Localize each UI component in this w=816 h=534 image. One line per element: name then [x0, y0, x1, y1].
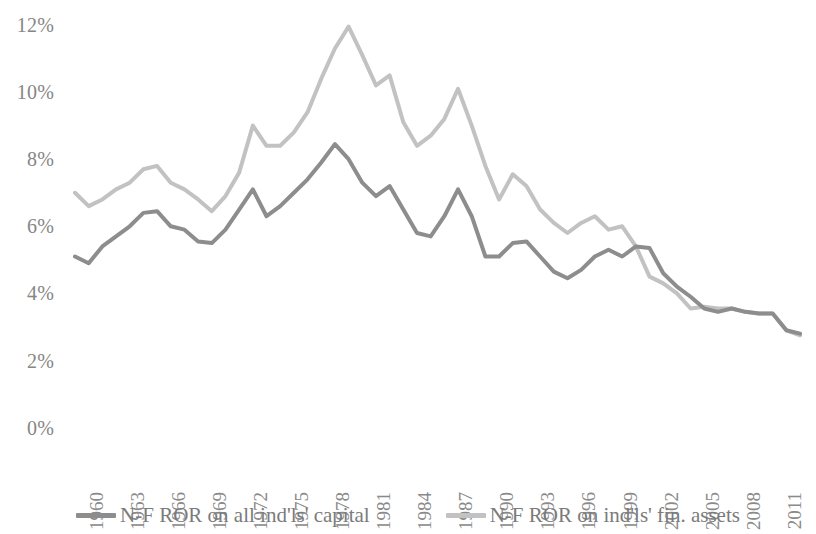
legend-item-label: N-F ROR on all ind'ls' capital	[120, 503, 370, 527]
legend-line-swatch-icon	[76, 513, 116, 518]
plot-svg	[62, 0, 816, 428]
y-axis-tick-label: 4%	[27, 283, 54, 303]
legend-item[interactable]: N-F ROR on all ind'ls' capital	[76, 503, 370, 527]
y-axis: 12%10%8%6%4%2%0%	[0, 0, 62, 440]
legend-item[interactable]: N-F ROR on ind'ls' fin. assets	[446, 503, 740, 527]
series-line	[75, 27, 800, 336]
chart-legend: N-F ROR on all ind'ls' capitalN-F ROR on…	[0, 496, 816, 534]
y-axis-tick-label: 6%	[27, 216, 54, 236]
y-axis-tick-label: 12%	[17, 15, 54, 35]
legend-item-label: N-F ROR on ind'ls' fin. assets	[490, 503, 740, 527]
x-axis: 1960196319661969197219751978198119841987…	[62, 428, 816, 494]
y-axis-tick-label: 8%	[27, 149, 54, 169]
line-chart: 12%10%8%6%4%2%0% 19601963196619691972197…	[0, 0, 816, 534]
y-axis-tick-label: 2%	[27, 351, 54, 371]
legend-line-swatch-icon	[446, 513, 486, 518]
series-line	[75, 144, 800, 334]
plot-area	[62, 0, 816, 428]
y-axis-tick-label: 10%	[17, 82, 54, 102]
y-axis-tick-label: 0%	[27, 418, 54, 438]
